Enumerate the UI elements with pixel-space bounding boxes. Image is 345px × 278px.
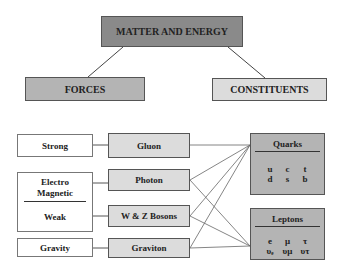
- constituents-label: CONSTITUENTS: [230, 84, 308, 95]
- wz-to-leptons-line: [190, 216, 250, 246]
- gluon-box: Gluon: [108, 133, 190, 158]
- quark: c: [279, 164, 297, 174]
- lepton: e: [261, 236, 279, 246]
- leptons-box: Leptons e μ τ υₑ υμ υτ: [250, 208, 325, 260]
- lepton: υτ: [296, 246, 314, 256]
- strong-label: Strong: [42, 141, 68, 151]
- forces-box: FORCES: [25, 77, 145, 101]
- graviton-to-quarks-line: [190, 145, 250, 248]
- electroweak-box: Electro Magnetic Weak: [17, 172, 93, 232]
- quark: u: [261, 164, 279, 174]
- photon-label: Photon: [135, 175, 163, 185]
- quark: t: [296, 164, 314, 174]
- lepton: τ: [296, 236, 314, 246]
- lepton: μ: [279, 236, 297, 246]
- quark: d: [261, 174, 279, 184]
- photon-to-quarks-line: [190, 145, 250, 180]
- quark: s: [279, 174, 297, 184]
- wz-to-quarks-line: [190, 145, 250, 216]
- matter-and-energy-label: MATTER AND ENERGY: [116, 26, 228, 37]
- gravity-label: Gravity: [40, 243, 70, 253]
- carrier-connections: [190, 145, 250, 248]
- wz-bosons-label: W & Z Bosons: [121, 211, 177, 221]
- wz-bosons-box: W & Z Bosons: [108, 205, 190, 227]
- quarks-grid: u c t d s b: [261, 164, 314, 184]
- leptons-title: Leptons: [255, 214, 319, 227]
- graviton-label: Graviton: [132, 243, 167, 253]
- photon-box: Photon: [108, 169, 190, 191]
- quark: b: [296, 174, 314, 184]
- root-to-constituents-line: [228, 47, 265, 78]
- gravity-force-box: Gravity: [17, 238, 93, 257]
- weak-label: Weak: [44, 212, 66, 222]
- matter-and-energy-box: MATTER AND ENERGY: [101, 16, 243, 47]
- magnetic-label: Magnetic: [24, 188, 86, 199]
- lepton: υₑ: [261, 246, 279, 256]
- lepton: υμ: [279, 246, 297, 256]
- constituents-box: CONSTITUENTS: [212, 78, 327, 101]
- photon-to-leptons-line: [190, 180, 250, 246]
- graviton-box: Graviton: [108, 238, 190, 258]
- forces-label: FORCES: [65, 84, 106, 95]
- quarks-title: Quarks: [255, 139, 319, 152]
- quarks-box: Quarks u c t d s b: [250, 133, 325, 195]
- root-to-forces-line: [88, 47, 123, 77]
- leptons-grid: e μ τ υₑ υμ υτ: [261, 236, 314, 256]
- electro-label: Electro: [24, 177, 86, 188]
- strong-force-box: Strong: [17, 134, 93, 157]
- gluon-label: Gluon: [137, 141, 161, 151]
- graviton-to-leptons-line: [190, 246, 250, 248]
